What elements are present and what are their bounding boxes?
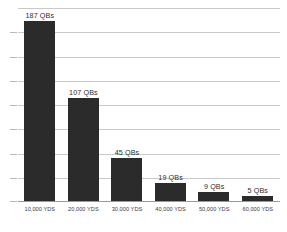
y-tick-100 (10, 105, 17, 106)
x-axis-tick-label: 40,000 YDS (149, 206, 193, 212)
bar-value-label: 9 QBs (192, 182, 236, 191)
bar-slot-2: 45 QBs (105, 8, 149, 202)
y-tick-75 (10, 129, 17, 130)
x-axis-tick-label: 10,000 YDS (18, 206, 62, 212)
x-axis-tick-label: 20,000 YDS (62, 206, 106, 212)
x-axis-labels: 10,000 YDS 20,000 YDS 30,000 YDS 40,000 … (18, 206, 280, 220)
bar-slot-4: 9 QBs (192, 8, 236, 202)
table-row[interactable] (68, 98, 99, 201)
y-tick-50 (10, 154, 17, 155)
bar-value-label: 45 QBs (105, 148, 149, 157)
bar-slot-5: 5 QBs (236, 8, 280, 202)
x-axis-tick-label: 50,000 YDS (192, 206, 236, 212)
table-row[interactable] (155, 183, 186, 201)
bar-chart: 187 QBs 107 QBs 45 QBs 19 QBs 9 QBs 5 QB (0, 0, 287, 232)
y-tick-175 (10, 32, 17, 33)
bar-value-label: 5 QBs (236, 186, 280, 195)
bar-value-label: 19 QBs (149, 173, 193, 182)
bar-series: 187 QBs 107 QBs 45 QBs 19 QBs 9 QBs 5 QB (18, 8, 280, 202)
table-row[interactable] (198, 192, 229, 201)
y-tick-150 (10, 57, 17, 58)
x-axis-tick-label: 30,000 YDS (105, 206, 149, 212)
y-tick-0 (10, 201, 17, 202)
y-tick-125 (10, 81, 17, 82)
x-axis-tick-label: 60,000 YDS (236, 206, 280, 212)
table-row[interactable] (242, 196, 273, 201)
plot-area: 187 QBs 107 QBs 45 QBs 19 QBs 9 QBs 5 QB (18, 8, 280, 202)
bar-value-label: 187 QBs (18, 11, 62, 20)
table-row[interactable] (111, 158, 142, 201)
bar-value-label: 107 QBs (62, 88, 106, 97)
bar-slot-0: 187 QBs (18, 8, 62, 202)
bar-slot-3: 19 QBs (149, 8, 193, 202)
y-tick-25 (10, 178, 17, 179)
table-row[interactable] (24, 21, 55, 201)
bar-slot-1: 107 QBs (62, 8, 106, 202)
